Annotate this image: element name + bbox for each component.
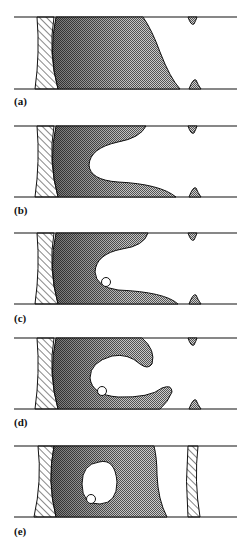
panel-label-c: (c) [14, 312, 26, 324]
panel-b [14, 126, 237, 197]
panel-label-a: (a) [14, 95, 27, 107]
panel-label-d: (d) [14, 416, 27, 428]
panel-a [14, 17, 237, 89]
right-hatched-plug [187, 446, 201, 517]
wall-bump-bottom [189, 80, 201, 89]
diagram-canvas [0, 0, 242, 541]
wall-bump-top [188, 17, 197, 24]
panel-d [14, 338, 237, 409]
bubble [102, 278, 111, 287]
panel-e [14, 446, 237, 517]
panel-c [14, 233, 237, 304]
panel-label-b: (b) [14, 204, 27, 216]
panel-label-e: (e) [14, 525, 26, 537]
